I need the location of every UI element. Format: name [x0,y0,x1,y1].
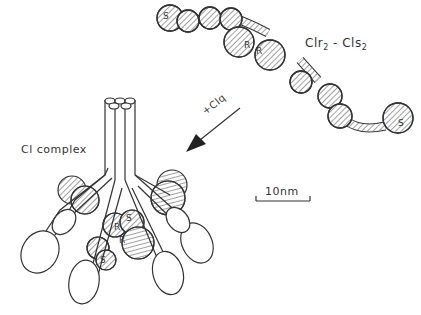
bead-r1: R [244,40,251,50]
binding-arrow [186,108,240,152]
complex-bead-r2: R [119,235,126,245]
bead-s-right: S [398,118,404,128]
cls-text: - Cls [329,36,362,50]
dimer-label: Clr2 - Cls2 [305,36,367,52]
scale-label: 10nm [265,185,299,198]
bead-r2: R [256,46,263,56]
clr2-cls2-tetramer [157,5,413,133]
complex-label: Cl complex [21,143,87,156]
complex-bead-s2: S [100,255,106,265]
complex-bead-s1: S [126,213,132,223]
cls-subscript: 2 [362,43,368,52]
bead-s-left: S [163,11,169,21]
complex-bead-r1: R [114,222,121,232]
clr-text: Clr [305,36,323,50]
c1-complex [13,98,219,306]
